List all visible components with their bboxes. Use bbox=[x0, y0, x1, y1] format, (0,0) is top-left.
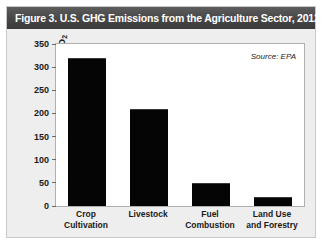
x-axis-tick-label-line: Livestock bbox=[117, 209, 179, 220]
bar bbox=[68, 58, 106, 206]
y-axis-tick-mark bbox=[52, 90, 56, 91]
x-axis-tick-label-line: Crop bbox=[55, 209, 117, 220]
y-axis-tick-label: 300 bbox=[23, 62, 52, 72]
bar bbox=[254, 197, 292, 206]
bar bbox=[130, 109, 168, 206]
y-axis-tick: 100 bbox=[23, 155, 56, 165]
x-axis-tick-label: Land Useand Forestry bbox=[241, 209, 303, 230]
y-axis-title-subscript: 2 bbox=[61, 35, 68, 39]
figure-title-bar: Figure 3. U.S. GHG Emissions from the Ag… bbox=[7, 7, 315, 29]
figure-container: Figure 3. U.S. GHG Emissions from the Ag… bbox=[0, 0, 322, 244]
y-axis-tick: 150 bbox=[23, 132, 56, 142]
y-axis-tick-label: 250 bbox=[23, 85, 52, 95]
y-axis-tick-mark bbox=[52, 206, 56, 207]
y-axis-tick: 350 bbox=[23, 39, 56, 49]
y-axis-tick-mark bbox=[52, 67, 56, 68]
y-axis-tick-mark bbox=[52, 159, 56, 160]
y-axis-tick-label: 100 bbox=[23, 155, 52, 165]
y-axis-tick: 250 bbox=[23, 85, 56, 95]
y-axis-tick: 300 bbox=[23, 62, 56, 72]
x-axis-tick-label-line: and Forestry bbox=[241, 220, 303, 231]
y-axis-tick-mark bbox=[52, 182, 56, 183]
y-axis-tick: 200 bbox=[23, 108, 56, 118]
x-axis-tick-label: FuelCombustion bbox=[179, 209, 241, 230]
x-axis-tick-label-line: Fuel bbox=[179, 209, 241, 220]
y-axis-tick-label: 200 bbox=[23, 108, 52, 118]
x-axis-tick-label-line: Land Use bbox=[241, 209, 303, 220]
x-axis-tick-label-line: Cultivation bbox=[55, 220, 117, 231]
y-axis-tick: 50 bbox=[23, 178, 56, 188]
x-axis-tick-label: CropCultivation bbox=[55, 209, 117, 230]
bar-series bbox=[56, 44, 304, 206]
x-axis-tick-label-line: Combustion bbox=[179, 220, 241, 231]
x-axis-tick-label: Livestock bbox=[117, 209, 179, 220]
y-axis-tick-label: 0 bbox=[23, 201, 52, 211]
y-axis-tick-label: 150 bbox=[23, 132, 52, 142]
y-axis-tick-mark bbox=[52, 136, 56, 137]
y-axis-tick-label: 350 bbox=[23, 39, 52, 49]
plot-area: Source: EPA 050100150200250300350 bbox=[55, 43, 305, 207]
y-axis-tick-label: 50 bbox=[23, 178, 52, 188]
page-title: Figure 3. U.S. GHG Emissions from the Ag… bbox=[7, 12, 320, 24]
x-axis-labels: CropCultivationLivestockFuelCombustionLa… bbox=[55, 209, 305, 239]
y-axis-tick: 0 bbox=[23, 201, 56, 211]
chart-area: Million Tons of CO2 Source: EPA 05010015… bbox=[7, 29, 315, 237]
y-axis-tick-mark bbox=[52, 113, 56, 114]
bar bbox=[192, 183, 230, 206]
y-axis-tick-mark bbox=[52, 44, 56, 45]
